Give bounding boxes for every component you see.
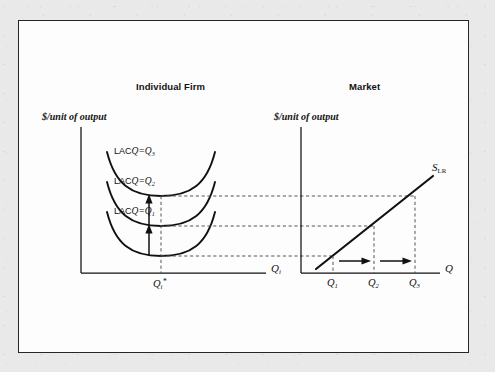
lac-label-q1-sub: 1 <box>152 210 155 217</box>
lac-label-q1-eq-rhs: Q <box>145 206 152 216</box>
economics-diagram <box>19 21 470 354</box>
lac-label-q3-eq: Q=Q3 <box>132 146 155 156</box>
tick-label-q-star-i: Qi* <box>153 277 166 290</box>
tick-label-q1-sub: 1 <box>335 282 338 289</box>
left-x-axis-name: Qi <box>271 262 281 276</box>
tick-label-q-star-i-base: Q <box>153 278 161 289</box>
right-y-axis-caption: $/unit of output <box>274 111 338 122</box>
panel-title-market: Market <box>349 81 380 92</box>
lac-label-q3-text: LAC <box>114 146 132 156</box>
left-panel-axes <box>81 127 266 273</box>
lac-label-q1: LACQ=Q1 <box>114 206 155 217</box>
lac-label-q2-eq-rhs: Q <box>145 176 152 186</box>
shift-arrow-q1-to-q2 <box>145 224 152 256</box>
supply-curve-label: SLR <box>432 161 447 174</box>
lac-label-q2-sub: 2 <box>152 180 155 187</box>
lac-label-q2-eq: Q=Q2 <box>132 176 155 186</box>
tick-label-q3: Q3 <box>409 277 420 289</box>
left-x-axis-name-sub: i <box>279 268 281 276</box>
left-x-axis-name-base: Q <box>271 262 279 274</box>
lac-label-q3-sub: 3 <box>152 150 155 157</box>
lac-curve-q3 <box>107 152 215 196</box>
lac-label-q2-eq-lhs: Q <box>132 176 139 186</box>
panel-title-individual-firm: Individual Firm <box>136 81 205 92</box>
tick-label-q2-base: Q <box>368 277 376 288</box>
supply-curve-label-sub: LR <box>438 167 447 174</box>
figure-plate: Individual Firm Market $/unit of output … <box>18 20 469 353</box>
lac-label-q2-text: LAC <box>114 176 132 186</box>
lac-label-q1-eq-lhs: Q <box>132 206 139 216</box>
lac-label-q2: LACQ=Q2 <box>114 176 155 187</box>
left-y-axis-caption: $/unit of output <box>42 111 106 122</box>
tick-label-q1-base: Q <box>327 277 335 288</box>
tick-label-q2-sub: 2 <box>376 282 379 289</box>
market-arrow-q2-to-q3 <box>380 257 412 264</box>
tick-label-q1: Q1 <box>327 277 338 289</box>
tick-label-q2: Q2 <box>368 277 379 289</box>
tick-label-q3-sub: 3 <box>417 282 420 289</box>
lac-label-q1-text: LAC <box>114 206 132 216</box>
market-arrow-q1-to-q2 <box>339 257 371 264</box>
lac-label-q3-eq-rhs: Q <box>145 146 152 156</box>
tick-label-q-star-i-sup: * <box>162 277 166 286</box>
tick-label-q3-base: Q <box>409 277 417 288</box>
figure-root: Individual Firm Market $/unit of output … <box>0 0 495 372</box>
right-x-axis-name: Q <box>445 262 453 274</box>
right-panel-axes <box>301 127 440 273</box>
lac-label-q1-eq: Q=Q1 <box>132 206 155 216</box>
lac-label-q3-eq-lhs: Q <box>132 146 139 156</box>
lac-label-q3: LACQ=Q3 <box>114 146 155 157</box>
